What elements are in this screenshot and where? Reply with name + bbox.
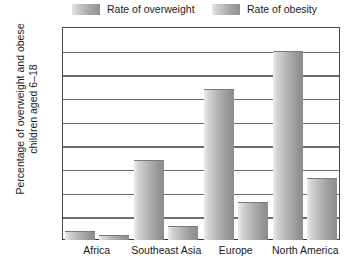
x-axis-ticks: AfricaSoutheast AsiaEuropeNorth America (62, 244, 340, 266)
bar-chart-figure: Rate of overweight Rate of obesity Perce… (0, 0, 349, 270)
bar (238, 202, 268, 240)
x-axis-tick-label: Europe (219, 244, 253, 256)
legend-swatch-icon-obesity (212, 4, 240, 15)
y-axis-title: Percentage of overweight and obese child… (14, 9, 40, 209)
legend-entry-rate-of-obesity: Rate of obesity (212, 2, 317, 16)
x-axis-tick-label: Africa (83, 244, 110, 256)
bar (307, 178, 337, 240)
legend-swatch-icon-overweight (72, 4, 100, 15)
bar-series-layer (62, 27, 340, 240)
bar (204, 89, 234, 240)
bar (134, 160, 164, 240)
legend-label-overweight: Rate of overweight (107, 4, 195, 15)
x-axis-tick-label: Southeast Asia (131, 244, 201, 256)
bar (65, 231, 95, 240)
bar (273, 51, 303, 240)
chart-legend: Rate of overweight Rate of obesity (0, 0, 349, 20)
y-axis-title-line-1: Percentage of overweight and obese (14, 9, 27, 209)
y-axis-title-line-2: children aged 6–18 (27, 9, 40, 209)
bar (99, 235, 129, 240)
legend-label-obesity: Rate of obesity (247, 4, 317, 15)
x-axis-tick-label: North America (272, 244, 339, 256)
bar (168, 226, 198, 240)
legend-entry-rate-of-overweight: Rate of overweight (72, 2, 195, 16)
